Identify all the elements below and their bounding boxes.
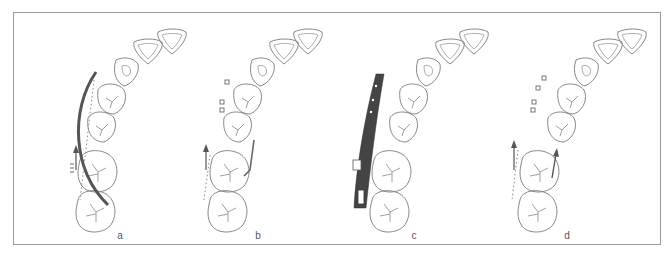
panel-b <box>203 29 322 232</box>
panel-d <box>511 29 646 232</box>
panel-label-c: c <box>412 230 417 241</box>
panel-a <box>70 29 186 232</box>
panel-label-b: b <box>255 230 261 241</box>
panel-label-d: d <box>564 230 570 241</box>
dental-diagram <box>0 0 672 261</box>
panel-c <box>353 29 488 232</box>
panel-label-a: a <box>117 230 123 241</box>
